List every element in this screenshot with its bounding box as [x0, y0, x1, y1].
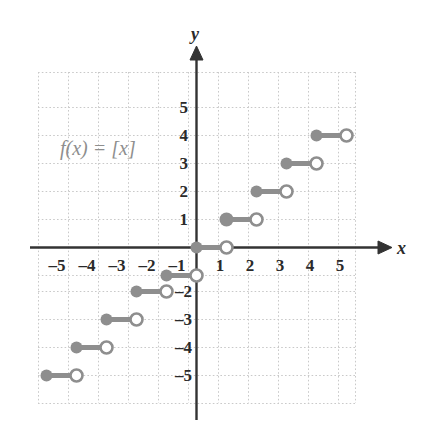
function-equation-label: f(x) = [x] — [60, 137, 136, 160]
y-tick-label: 2 — [180, 182, 189, 201]
closed-point — [220, 213, 234, 227]
x-tick-label: 4 — [306, 256, 315, 275]
open-point — [311, 158, 323, 170]
open-point — [341, 130, 353, 142]
closed-point — [41, 370, 53, 382]
open-point — [191, 270, 203, 282]
open-point — [281, 186, 293, 198]
y-tick-label: –3 — [174, 310, 192, 329]
x-tick-label: –4 — [78, 256, 97, 275]
x-axis-label: x — [396, 238, 406, 258]
closed-point — [251, 186, 263, 198]
x-tick-label: –3 — [108, 256, 126, 275]
y-tick-label: 3 — [180, 154, 189, 173]
y-axis-label: y — [189, 24, 200, 44]
closed-point — [101, 314, 113, 326]
open-point — [251, 214, 263, 226]
closed-point — [191, 242, 203, 254]
closed-point — [281, 158, 293, 170]
closed-point — [131, 286, 143, 298]
closed-point — [71, 342, 83, 354]
x-tick-label: 5 — [336, 256, 345, 275]
y-tick-label: –2 — [174, 282, 192, 301]
x-axis-arrowhead — [378, 241, 392, 254]
x-tick-label: –5 — [48, 256, 66, 275]
closed-point — [161, 270, 173, 282]
closed-point — [311, 130, 323, 142]
x-tick-label: 3 — [276, 256, 285, 275]
y-tick-label: 4 — [180, 126, 189, 145]
y-axis-arrowhead — [190, 46, 203, 60]
open-point — [131, 314, 143, 326]
open-point — [101, 342, 113, 354]
y-tick-label: –5 — [174, 366, 192, 385]
y-tick-label: 5 — [180, 98, 189, 117]
y-tick-label: 1 — [180, 210, 189, 229]
y-tick-label: –4 — [174, 338, 193, 357]
step-function-figure: x y –5 –4 –3 –2 –1 1 2 3 4 5 5 4 3 2 1 –… — [0, 0, 422, 442]
y-tick-labels: 5 4 3 2 1 –2 –3 –4 –5 — [174, 98, 193, 385]
open-point — [161, 286, 173, 298]
open-point — [221, 242, 233, 254]
open-point — [71, 370, 83, 382]
x-tick-label: 1 — [216, 256, 225, 275]
x-tick-label: 2 — [246, 256, 255, 275]
axes — [30, 46, 392, 420]
graph-canvas: x y –5 –4 –3 –2 –1 1 2 3 4 5 5 4 3 2 1 –… — [0, 0, 422, 442]
x-tick-label: –2 — [138, 256, 156, 275]
